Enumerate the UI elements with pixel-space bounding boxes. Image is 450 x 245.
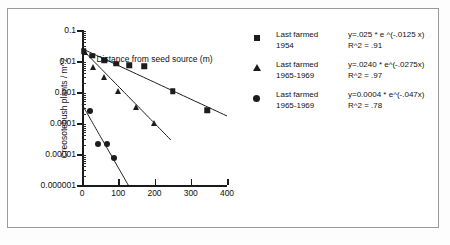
x-tick-label: 100 [111, 189, 125, 198]
legend-entry: Last farmed1965-1969y=.0240 * e^(-.0275x… [252, 60, 437, 90]
fit-equation: y=.0240 * e^(-.0275x) [348, 60, 424, 71]
r-squared-value: R^2 = .78 [348, 101, 424, 112]
x-tick-label: 0 [80, 189, 85, 198]
triangle-marker-icon [133, 104, 139, 110]
square-marker-icon [142, 63, 148, 69]
y-tick-label: 0.000001 [41, 181, 76, 190]
triangle-marker-icon [115, 88, 121, 94]
figure-container: 0.10.010.0010.00010.000010.000001 010020… [0, 0, 450, 245]
y-tick-major [77, 185, 83, 187]
legend-label: Last farmed1954 [276, 30, 318, 51]
legend-label: Last farmed1965-1969 [276, 60, 318, 81]
chart-legend: Last farmed1954y=.025 * e ^(-.0125 x)R^2… [252, 30, 437, 120]
fit-equation: y=0.0004 * e^(-.047x) [348, 90, 424, 101]
legend-entry: Last farmed1954y=.025 * e ^(-.0125 x)R^2… [252, 30, 437, 60]
circle-marker-icon-glyph [253, 95, 260, 102]
x-tick-label: 200 [147, 189, 161, 198]
r-squared-value: R^2 = .97 [348, 71, 424, 82]
x-tick-major [227, 179, 229, 185]
triangle-marker-icon [151, 120, 157, 126]
legend-label-line1: Last farmed [276, 30, 318, 41]
square-marker-icon [204, 107, 210, 113]
r-squared-value: R^2 = .91 [348, 41, 424, 52]
triangle-marker-icon-glyph [253, 64, 261, 71]
legend-entry: Last farmed1965-1969y=0.0004 * e^(-.047x… [252, 90, 437, 120]
legend-label-line2: 1954 [276, 41, 318, 52]
x-tick-label: 300 [184, 189, 198, 198]
x-tick-label: 400 [220, 189, 234, 198]
triangle-marker-icon [252, 63, 262, 73]
legend-equation: y=.025 * e ^(-.0125 x)R^2 = .91 [348, 30, 424, 51]
legend-label-line2: 1965-1969 [276, 71, 318, 82]
circle-marker-icon [252, 93, 262, 103]
square-marker-icon [170, 89, 176, 95]
fit-equation: y=.025 * e ^(-.0125 x) [348, 30, 424, 41]
plot-area: 0.10.010.0010.00010.000010.000001 010020… [82, 30, 227, 185]
legend-label-line1: Last farmed [276, 90, 318, 101]
legend-equation: y=0.0004 * e^(-.047x)R^2 = .78 [348, 90, 424, 111]
legend-equation: y=.0240 * e^(-.0275x)R^2 = .97 [348, 60, 424, 81]
legend-label-line2: 1965-1969 [276, 101, 318, 112]
legend-label: Last farmed1965-1969 [276, 90, 318, 111]
x-axis-line [82, 185, 227, 187]
legend-label-line1: Last farmed [276, 60, 318, 71]
y-tick-label: 0.1 [64, 26, 76, 35]
circle-marker-icon [95, 141, 101, 147]
square-marker-icon-glyph [254, 35, 260, 41]
circle-marker-icon [111, 155, 117, 161]
y-axis-title: Creosotebush plants / m^2 [59, 57, 69, 158]
x-axis-title: Distance from seed source (m) [82, 54, 227, 64]
square-marker-icon [252, 33, 262, 43]
circle-marker-icon [104, 141, 110, 147]
triangle-marker-icon [101, 74, 107, 80]
triangle-marker-icon [90, 64, 96, 70]
circle-marker-icon [87, 108, 93, 114]
